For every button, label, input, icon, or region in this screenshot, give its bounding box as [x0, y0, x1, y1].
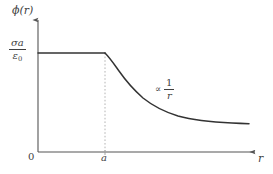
y-axis-label: ϕ(r)	[12, 5, 33, 16]
origin-label: 0	[28, 152, 34, 162]
fraction-numerator: 1	[164, 78, 174, 89]
x-tick-label-a: a	[101, 153, 107, 163]
epsilon-subscript: 0	[18, 55, 22, 63]
plot-canvas	[0, 0, 273, 174]
fraction-denominator: ε0	[11, 50, 25, 61]
x-axis-label: r	[258, 153, 263, 164]
fraction-one-over-r: 1 r	[164, 78, 174, 101]
proportional-to-icon: ∝	[155, 85, 161, 94]
curve-inverse-r-segment	[105, 53, 249, 124]
fraction-sigma-a-over-epsilon0: σa ε0	[9, 38, 26, 61]
fraction-denominator: r	[165, 90, 174, 101]
curve-annotation-inverse-r: ∝ 1 r	[155, 78, 174, 101]
y-tick-label-sigma-a-over-epsilon0: σa ε0	[9, 38, 26, 61]
fraction-numerator: σa	[9, 38, 26, 49]
figure-root: ϕ(r) r 0 a σa ε0 ∝ 1 r	[0, 0, 273, 174]
